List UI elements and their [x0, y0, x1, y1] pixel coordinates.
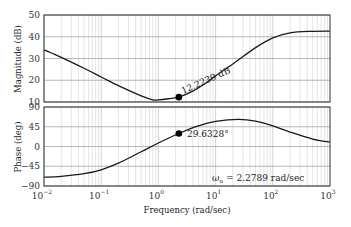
x-axis-label: Frequency (rad/sec): [144, 205, 231, 215]
y-tick-label: 45: [29, 122, 41, 132]
x-tick-label: 10−1: [89, 188, 109, 201]
magnitude-y-ticks: 1020304050: [29, 10, 41, 107]
magnitude-ylabel: Magnitude (dB): [13, 25, 23, 93]
x-tick-label: 100: [149, 188, 164, 201]
phase-curve: [44, 119, 330, 177]
y-tick-label: 40: [29, 32, 41, 42]
omega-annotation: ωu = 2.2789 rad/sec: [212, 173, 304, 184]
phase-y-ticks: −90−4504590: [21, 102, 40, 191]
x-tick-label: 102: [263, 188, 278, 201]
y-tick-label: −45: [21, 161, 40, 171]
magnitude-marker: [176, 94, 183, 101]
y-tick-label: 30: [29, 54, 41, 64]
phase-marker: [176, 130, 183, 137]
y-tick-label: −90: [21, 181, 40, 191]
x-ticks: 10−210−1100101102103: [32, 188, 336, 201]
bode-plot: 1020304050 −90−4504590 10−210−1100101102…: [0, 0, 351, 227]
y-tick-label: 20: [29, 75, 41, 85]
x-tick-label: 103: [320, 188, 335, 201]
y-tick-label: 90: [29, 102, 41, 112]
phase-marker-label: 29.6328°: [187, 129, 229, 139]
y-tick-label: 50: [29, 10, 41, 20]
phase-ylabel: Phase (deg): [13, 122, 23, 173]
y-tick-label: 0: [34, 142, 40, 152]
x-tick-label: 101: [206, 188, 221, 201]
omega-value: = 2.2789 rad/sec: [223, 173, 304, 183]
